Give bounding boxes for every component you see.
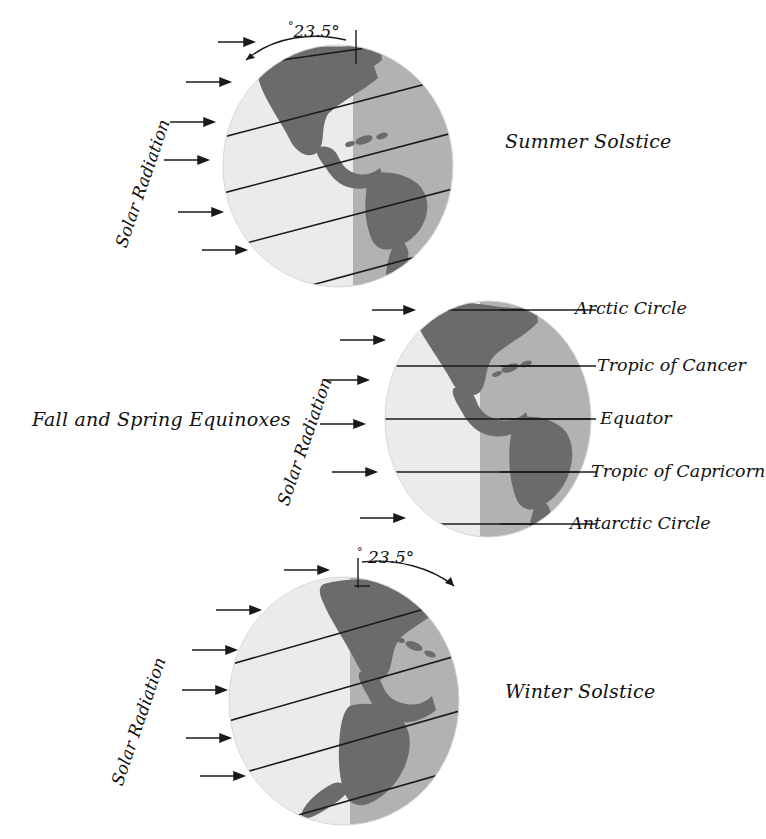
solar-arrow [182, 686, 226, 694]
solar-arrow [170, 118, 214, 126]
solar-arrow [320, 420, 364, 428]
solar-arrow [284, 566, 328, 574]
solar-arrow [216, 606, 260, 614]
label-equator: Equator [600, 408, 672, 428]
label-tropic-of-capricorn: Tropic of Capricorn [591, 461, 765, 481]
label-arctic-circle: Arctic Circle [575, 298, 687, 318]
solar-arrow [202, 246, 246, 254]
solar-arrow [178, 208, 222, 216]
caption-equinoxes: Fall and Spring Equinoxes [32, 408, 291, 430]
solar-arrow [360, 514, 404, 522]
solar-arrows-equinox [310, 300, 420, 540]
caption-summer-solstice: Summer Solstice [505, 130, 672, 152]
solar-arrow [200, 772, 244, 780]
label-tropic-of-cancer: Tropic of Cancer [597, 355, 746, 375]
solar-arrow [372, 306, 414, 314]
solar-arrow [332, 468, 376, 476]
solar-arrow [218, 38, 254, 46]
solar-arrow [164, 156, 208, 164]
tilt-arc-winter [348, 556, 468, 598]
solar-arrow [186, 78, 230, 86]
solar-arrows-winter [150, 560, 330, 820]
solar-arrow [340, 336, 384, 344]
solar-arrow [192, 646, 236, 654]
solar-arrows-summer [150, 36, 260, 288]
label-antarctic-circle: Antarctic Circle [570, 513, 711, 533]
solar-arrow [186, 734, 230, 742]
caption-winter-solstice: Winter Solstice [505, 680, 655, 702]
